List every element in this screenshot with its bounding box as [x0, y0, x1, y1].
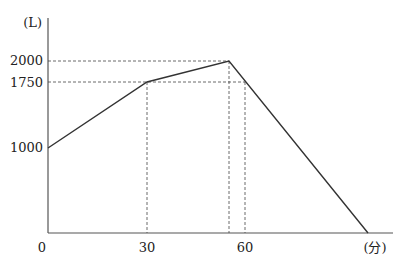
reference-lines	[48, 61, 245, 233]
line-chart: (L) 2000 1750 1000 0 30 60 (分)	[0, 0, 410, 266]
data-line	[48, 61, 368, 233]
y-tick-2000: 2000	[10, 53, 43, 68]
y-tick-1750: 1750	[10, 75, 43, 90]
y-tick-1000: 1000	[10, 140, 43, 155]
x-unit-label: (分)	[363, 240, 386, 255]
x-tick-30: 30	[139, 240, 156, 255]
y-unit-label: (L)	[23, 15, 42, 30]
x-tick-0: 0	[38, 240, 46, 255]
x-tick-60: 60	[237, 240, 254, 255]
